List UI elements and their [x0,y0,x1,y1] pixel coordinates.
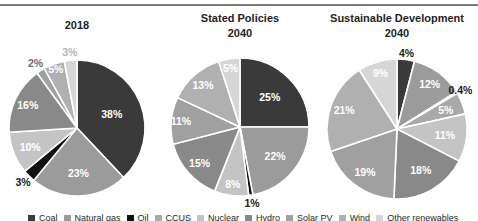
legend-color-swatch [197,215,204,221]
legend-color-swatch [127,215,134,221]
slice-label-coal: 38% [101,108,123,120]
slice-label-nuclear: 10% [20,141,42,153]
slice-label-coal: 25% [259,91,281,103]
report-figure: 2018 Stated Policies 2040 Sustainable De… [0,0,478,221]
slice-label-other-renewables: 3% [62,46,78,58]
legend-color-swatch [28,215,35,221]
legend-color-swatch [286,215,293,221]
slice-label-hydro: 18% [410,164,432,176]
slice-label-coal: 4% [399,47,415,59]
slice-label-nuclear: 8% [225,178,241,190]
slice-label-solar-pv: 19% [354,166,376,178]
slice-label-hydro: 16% [17,99,39,111]
legend-item-coal: Coal [28,213,58,221]
slice-label-hydro: 15% [189,157,211,169]
legend-item-label: Wind [350,213,371,221]
legend-item-label: Natural gas [75,213,121,221]
slice-label-wind: 13% [192,79,214,91]
legend-color-swatch [376,215,383,221]
chart-legend: CoalNatural gasOilCCUSNuclearHydroSolar … [28,213,478,221]
legend-color-swatch [64,215,71,221]
slice-label-solar-pv: 2% [28,57,44,69]
legend-item-label: Nuclear [208,213,239,221]
legend-color-swatch [339,215,346,221]
slice-label-solar-pv: 11% [171,115,192,127]
pie-stated-policies-2040: 25%22%1%8%15%11%13%5% [171,58,309,209]
slice-label-wind: 5% [48,63,64,75]
legend-color-swatch [245,215,252,221]
slice-label-oil: 1% [245,197,261,209]
legend-item-hydro: Hydro [245,213,280,221]
pie-sustainable-development-2040: 4%12%0.4%5%11%18%19%21%9% [327,47,473,199]
legend-item-label: Oil [138,213,149,221]
legend-item-natural-gas: Natural gas [64,213,121,221]
legend-item-nuclear: Nuclear [197,213,239,221]
slice-label-natural-gas: 22% [265,150,287,162]
legend-item-label: Other renewables [387,213,458,221]
slice-label-oil: 3% [16,176,32,188]
legend-item-label: Hydro [256,213,280,221]
legend-item-label: CCUS [166,213,192,221]
legend-item-solar-pv: Solar PV [286,213,333,221]
slice-label-other-renewables: 5% [223,62,239,74]
slice-label-natural-gas: 12% [419,78,441,90]
legend-item-label: Coal [39,213,58,221]
legend-item-oil: Oil [127,213,149,221]
legend-item-ccus: CCUS [155,213,192,221]
slice-label-ccus: 5% [438,104,454,116]
slice-label-natural-gas: 23% [68,167,90,179]
legend-item-other-renewables: Other renewables [376,213,458,221]
slice-label-other-renewables: 9% [373,67,389,79]
slice-label-oil: 0.4% [448,84,473,96]
slice-label-wind: 21% [334,104,356,116]
pie-charts-svg: 38%23%3%10%16%2%5%3%25%22%1%8%15%11%13%5… [0,0,478,212]
legend-color-swatch [155,215,162,221]
legend-item-wind: Wind [339,213,371,221]
slice-label-nuclear: 11% [435,129,456,141]
pie-2018: 38%23%3%10%16%2%5%3% [9,46,145,196]
legend-item-label: Solar PV [297,213,333,221]
